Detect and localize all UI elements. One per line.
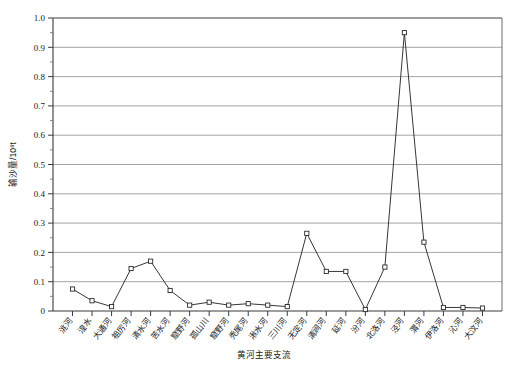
data-series-line	[73, 33, 483, 310]
data-point-marker	[109, 305, 113, 309]
data-point-marker	[363, 307, 367, 311]
data-point-marker	[480, 306, 484, 310]
x-axis-tick-label: 渭河	[408, 316, 426, 335]
x-axis-tick-label: 北洛河	[364, 316, 387, 341]
data-point-marker	[149, 259, 153, 263]
x-axis-tick-label: 三川河	[266, 316, 289, 341]
data-point-marker	[129, 266, 133, 270]
data-point-marker	[285, 305, 289, 309]
x-axis-tick-label: 大汶河	[461, 316, 484, 341]
data-point-marker	[305, 231, 309, 235]
data-point-marker	[266, 303, 270, 307]
data-point-marker	[324, 269, 328, 273]
data-point-marker	[461, 305, 465, 309]
y-axis-tick-label: 0.8	[34, 72, 46, 82]
data-point-marker	[188, 303, 192, 307]
y-axis-tick-label: 0.2	[34, 248, 45, 258]
data-point-marker	[402, 31, 406, 35]
y-axis-tick-label: 0.3	[34, 218, 46, 228]
y-axis-tick-label: 0.5	[34, 160, 46, 170]
x-axis-tick-label: 窟野河	[169, 316, 192, 341]
series-polyline	[73, 33, 483, 310]
y-axis-tick-label: 1.0	[34, 13, 46, 23]
y-axis-tick-label: 0.7	[34, 101, 46, 111]
x-axis-tick-label: 泾河	[388, 316, 406, 335]
y-axis-tick-label: 0.9	[34, 43, 46, 53]
data-point-marker	[246, 302, 250, 306]
y-axis-ticks	[48, 18, 53, 311]
data-point-marker	[90, 299, 94, 303]
x-axis-tick-label: 秃尾河	[227, 316, 250, 341]
x-axis-tick-label: 洮河	[56, 316, 74, 335]
y-axis-tick-label: 0.6	[34, 130, 46, 140]
x-axis-tick-label: 湫水河	[247, 316, 270, 341]
x-axis-tick-labels: 洮河湟水大通河祖厉河清水河苦水河窟野河孤山川窟野河秃尾河湫水河三川河无定河清涧河…	[56, 316, 484, 341]
x-axis-tick-label: 无定河	[286, 316, 309, 341]
x-axis-tick-label: 苦水河	[149, 316, 172, 341]
data-point-marker	[422, 240, 426, 244]
y-axis-tick-label: 0	[41, 306, 46, 316]
chart-canvas: 00.10.20.30.40.50.60.70.80.91.0 洮河湟水大通河祖…	[0, 0, 529, 374]
x-axis-tick-label: 祖厉河	[110, 316, 133, 341]
x-axis-title-text: 黄河主要支流	[237, 349, 291, 360]
x-axis-tick-label: 延河	[330, 316, 348, 335]
x-axis-tick-label: 孤山川	[188, 316, 211, 341]
data-point-marker	[383, 265, 387, 269]
data-point-marker	[344, 269, 348, 273]
x-axis-tick-label: 湟水	[76, 316, 94, 335]
x-axis-tick-label: 清水河	[130, 316, 153, 341]
data-point-marker	[207, 300, 211, 304]
x-axis-tick-label: 窟野河	[208, 316, 231, 341]
x-axis-tick-label: 汾河	[349, 316, 367, 335]
x-axis-ticks	[73, 311, 483, 316]
y-axis-title: 输沙量/10⁸t	[7, 141, 18, 187]
x-axis-tick-label: 伊洛河	[422, 316, 445, 341]
y-axis-title-text: 输沙量/10⁸t	[7, 141, 18, 187]
data-point-marker	[70, 287, 74, 291]
x-axis-tick-label: 沁河	[447, 316, 465, 335]
y-axis-tick-label: 0.4	[34, 189, 46, 199]
y-axis-tick-labels: 00.10.20.30.40.50.60.70.80.91.0	[34, 13, 46, 316]
data-point-marker	[227, 303, 231, 307]
sediment-load-chart: 00.10.20.30.40.50.60.70.80.91.0 洮河湟水大通河祖…	[0, 0, 529, 374]
data-point-marker	[168, 288, 172, 292]
y-axis-tick-label: 0.1	[34, 277, 45, 287]
gridlines-group	[53, 18, 502, 282]
data-point-markers	[70, 31, 484, 312]
data-point-marker	[441, 305, 445, 309]
x-axis-tick-label: 大通河	[90, 316, 113, 341]
x-axis-tick-label: 清涧河	[305, 316, 328, 341]
